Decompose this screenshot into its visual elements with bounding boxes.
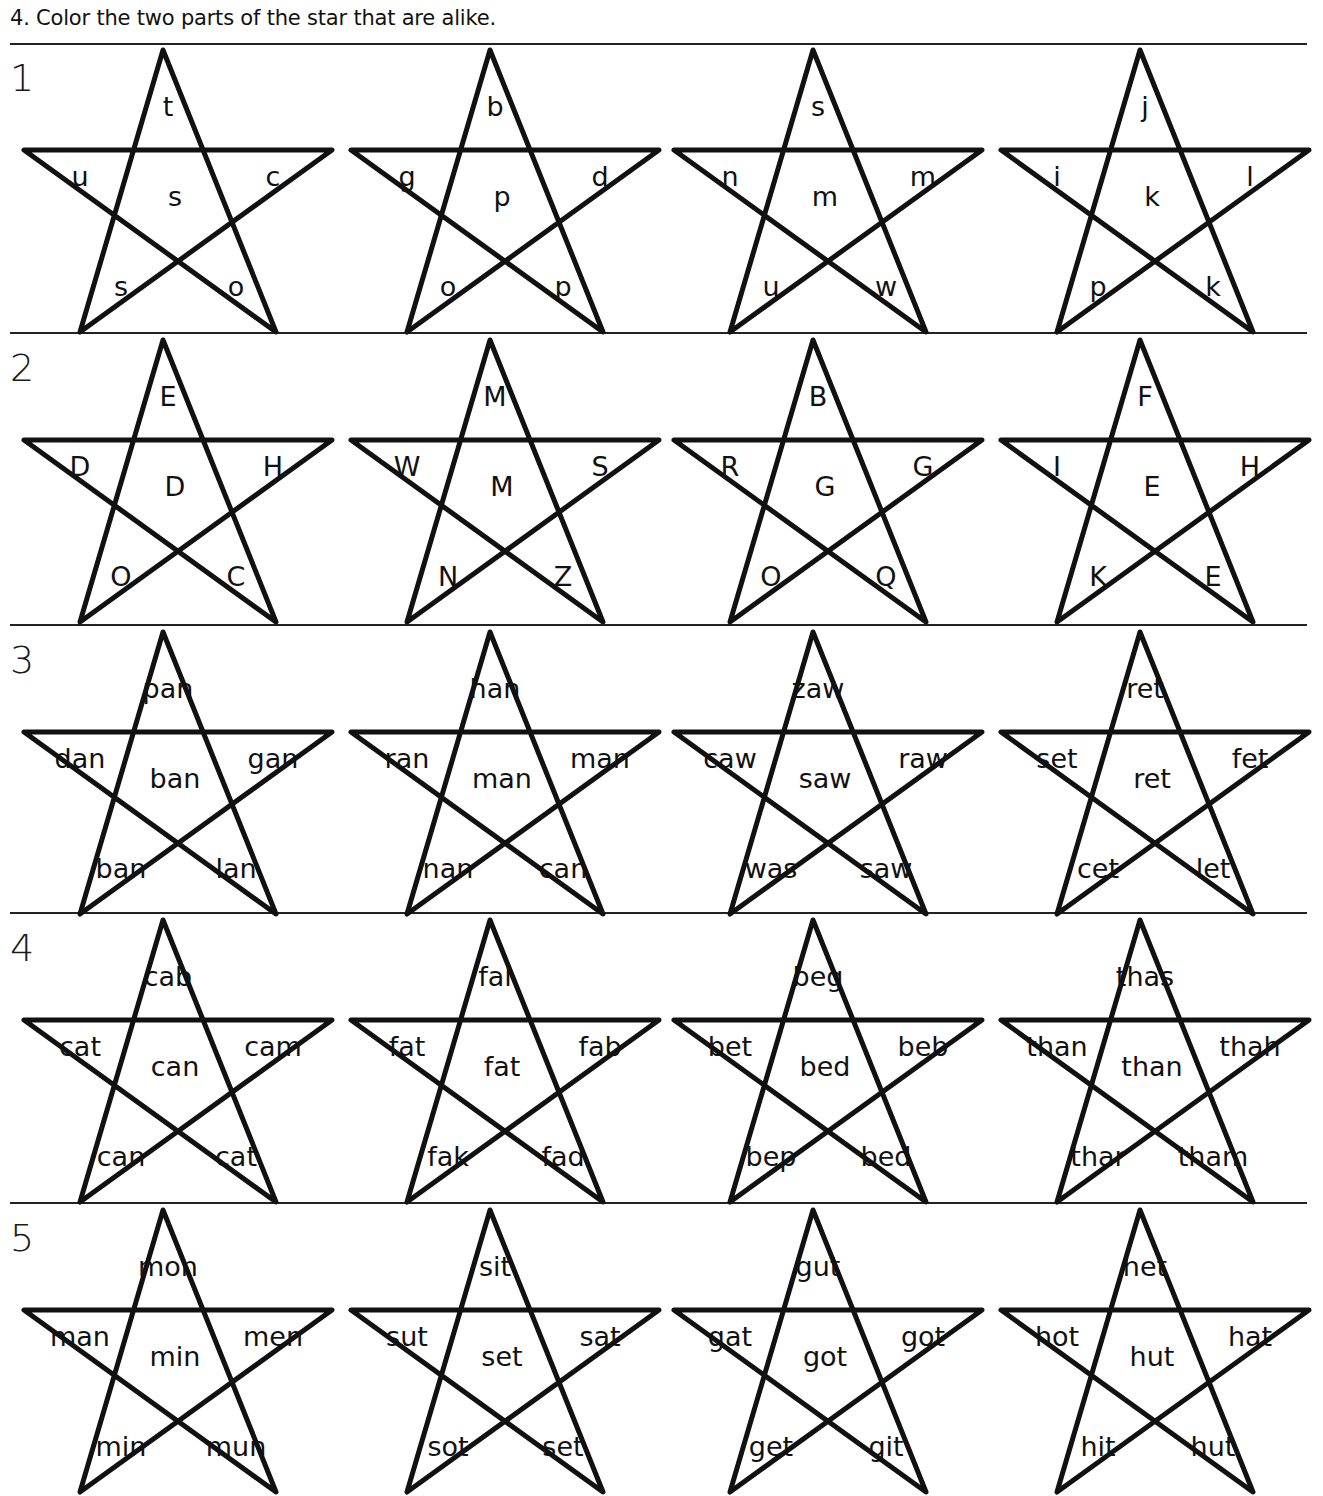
star-part-bottom-left[interactable]: fak bbox=[427, 1143, 469, 1170]
star-r4-c2[interactable]: falfatfatfabfakfad bbox=[345, 916, 665, 1208]
star-part-center[interactable]: can bbox=[151, 1053, 200, 1080]
star-r2-c4[interactable]: FIEHKE bbox=[995, 336, 1315, 628]
star-part-left[interactable]: u bbox=[71, 163, 88, 190]
star-r4-c3[interactable]: begbetbedbebbepbed bbox=[668, 916, 988, 1208]
star-r2-c2[interactable]: MWMSNZ bbox=[345, 336, 665, 628]
star-part-top[interactable]: E bbox=[159, 383, 176, 410]
star-part-bottom-right[interactable]: git bbox=[868, 1433, 903, 1460]
star-r3-c1[interactable]: pandanbanganbanlan bbox=[18, 628, 338, 920]
star-part-left[interactable]: hot bbox=[1035, 1323, 1079, 1350]
star-part-left[interactable]: D bbox=[70, 453, 91, 480]
star-part-right[interactable]: hat bbox=[1228, 1323, 1272, 1350]
star-part-bottom-left[interactable]: bep bbox=[746, 1143, 797, 1170]
star-part-bottom-left[interactable]: hit bbox=[1080, 1433, 1115, 1460]
star-part-bottom-left[interactable]: was bbox=[745, 855, 798, 882]
star-part-bottom-left[interactable]: s bbox=[114, 273, 128, 300]
star-part-center[interactable]: man bbox=[472, 765, 532, 792]
star-part-center[interactable]: M bbox=[490, 473, 513, 500]
star-part-top[interactable]: B bbox=[809, 383, 828, 410]
star-part-bottom-right[interactable]: cat bbox=[215, 1143, 257, 1170]
star-part-right[interactable]: H bbox=[263, 453, 283, 480]
star-part-right[interactable]: l bbox=[1246, 163, 1254, 190]
star-part-right[interactable]: cam bbox=[244, 1033, 302, 1060]
star-part-top[interactable]: han bbox=[470, 675, 521, 702]
star-part-top[interactable]: s bbox=[811, 93, 825, 120]
star-part-right[interactable]: got bbox=[901, 1323, 945, 1350]
star-part-bottom-right[interactable]: k bbox=[1205, 273, 1221, 300]
star-part-bottom-left[interactable]: O bbox=[110, 563, 131, 590]
star-r4-c1[interactable]: cabcatcancamcancat bbox=[18, 916, 338, 1208]
star-part-center[interactable]: bed bbox=[800, 1053, 851, 1080]
star-part-right[interactable]: men bbox=[243, 1323, 303, 1350]
star-part-left[interactable]: cat bbox=[59, 1033, 101, 1060]
star-part-bottom-right[interactable]: set bbox=[542, 1433, 583, 1460]
star-part-bottom-left[interactable]: min bbox=[96, 1433, 147, 1460]
star-part-right[interactable]: gan bbox=[248, 745, 299, 772]
star-r2-c3[interactable]: BRGGOQ bbox=[668, 336, 988, 628]
star-part-bottom-right[interactable]: C bbox=[227, 563, 246, 590]
star-part-left[interactable]: bet bbox=[708, 1033, 752, 1060]
star-part-right[interactable]: beb bbox=[898, 1033, 949, 1060]
star-part-bottom-right[interactable]: Z bbox=[554, 563, 573, 590]
star-part-bottom-left[interactable]: nan bbox=[423, 855, 474, 882]
star-part-bottom-left[interactable]: u bbox=[762, 273, 779, 300]
star-r2-c1[interactable]: EDDHOC bbox=[18, 336, 338, 628]
star-part-bottom-right[interactable]: fad bbox=[541, 1143, 584, 1170]
star-part-left[interactable]: W bbox=[394, 453, 421, 480]
star-part-top[interactable]: gut bbox=[796, 1253, 841, 1280]
star-part-center[interactable]: than bbox=[1121, 1053, 1182, 1080]
star-part-center[interactable]: D bbox=[165, 473, 186, 500]
star-part-left[interactable]: caw bbox=[703, 745, 756, 772]
star-r4-c4[interactable]: thasthanthanthahthartham bbox=[995, 916, 1315, 1208]
star-part-left[interactable]: ran bbox=[385, 745, 430, 772]
star-r5-c1[interactable]: monmanminmenminmun bbox=[18, 1206, 338, 1496]
star-part-bottom-left[interactable]: get bbox=[749, 1433, 793, 1460]
star-part-center[interactable]: fat bbox=[484, 1053, 521, 1080]
star-part-bottom-right[interactable]: tham bbox=[1178, 1143, 1249, 1170]
star-part-bottom-right[interactable]: saw bbox=[860, 855, 913, 882]
star-part-left[interactable]: g bbox=[398, 163, 415, 190]
star-part-bottom-right[interactable]: let bbox=[1196, 855, 1231, 882]
star-part-bottom-left[interactable]: O bbox=[760, 563, 781, 590]
star-part-center[interactable]: G bbox=[815, 473, 836, 500]
star-r1-c4[interactable]: jiklpk bbox=[995, 46, 1315, 338]
star-part-center[interactable]: k bbox=[1144, 183, 1160, 210]
star-part-bottom-right[interactable]: can bbox=[539, 855, 588, 882]
star-part-top[interactable]: cab bbox=[144, 963, 193, 990]
star-part-left[interactable]: dan bbox=[55, 745, 106, 772]
star-part-center[interactable]: min bbox=[150, 1343, 201, 1370]
star-part-center[interactable]: p bbox=[493, 183, 510, 210]
star-part-top[interactable]: mon bbox=[138, 1253, 198, 1280]
star-part-left[interactable]: R bbox=[721, 453, 740, 480]
star-r3-c4[interactable]: retsetretfetcetlet bbox=[995, 628, 1315, 920]
star-part-top[interactable]: zaw bbox=[792, 675, 845, 702]
star-part-bottom-left[interactable]: cet bbox=[1077, 855, 1119, 882]
star-part-bottom-right[interactable]: o bbox=[228, 273, 245, 300]
star-part-center[interactable]: E bbox=[1143, 473, 1160, 500]
star-part-right[interactable]: fab bbox=[578, 1033, 621, 1060]
star-part-bottom-left[interactable]: sot bbox=[427, 1433, 468, 1460]
star-part-left[interactable]: set bbox=[1036, 745, 1077, 772]
star-part-left[interactable]: man bbox=[50, 1323, 110, 1350]
star-part-center[interactable]: hut bbox=[1130, 1343, 1175, 1370]
star-part-bottom-left[interactable]: K bbox=[1089, 563, 1107, 590]
star-r1-c3[interactable]: snmmuw bbox=[668, 46, 988, 338]
star-part-right[interactable]: man bbox=[570, 745, 630, 772]
star-part-top[interactable]: ret bbox=[1126, 675, 1164, 702]
star-part-bottom-left[interactable]: can bbox=[97, 1143, 146, 1170]
star-part-top[interactable]: thas bbox=[1116, 963, 1174, 990]
star-part-top[interactable]: j bbox=[1141, 93, 1149, 120]
star-part-center[interactable]: ban bbox=[150, 765, 201, 792]
star-r1-c2[interactable]: bgpdop bbox=[345, 46, 665, 338]
star-part-left[interactable]: i bbox=[1053, 163, 1061, 190]
star-part-right[interactable]: G bbox=[913, 453, 934, 480]
star-part-left[interactable]: sut bbox=[386, 1323, 428, 1350]
star-part-center[interactable]: m bbox=[812, 183, 838, 210]
star-part-top[interactable]: fal bbox=[478, 963, 512, 990]
star-part-bottom-left[interactable]: thar bbox=[1070, 1143, 1125, 1170]
star-part-bottom-right[interactable]: p bbox=[554, 273, 571, 300]
star-part-bottom-left[interactable]: p bbox=[1089, 273, 1106, 300]
star-part-bottom-right[interactable]: lan bbox=[215, 855, 256, 882]
star-part-top[interactable]: beg bbox=[793, 963, 844, 990]
star-part-bottom-right[interactable]: w bbox=[875, 273, 897, 300]
